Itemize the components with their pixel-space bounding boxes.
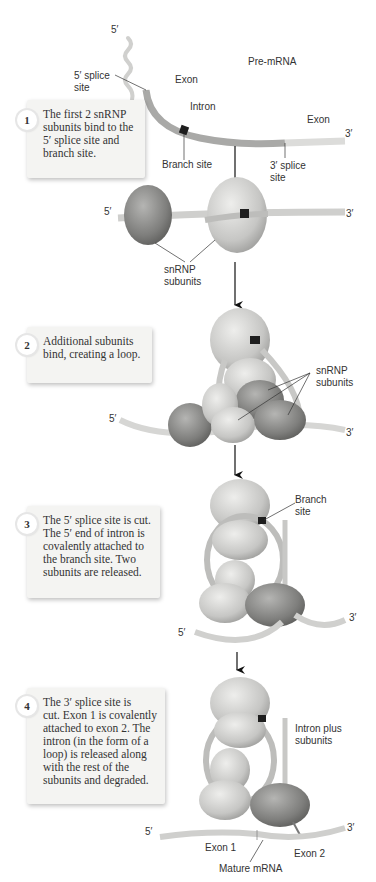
step-number-badge: 2 [17,335,37,355]
intron-label: Intron [190,101,216,113]
stage4-complex [199,677,310,835]
five-prime-label: 5′ [178,627,185,639]
step-description: The 3′ splice site is cut. Exon 1 is cov… [43,696,159,787]
five-prime-label: 5′ [104,206,111,218]
snrnp-subunits-label: snRNP subunits [316,365,353,389]
three-prime-label: 3′ [349,612,356,624]
step-2-box: 2 Additional subunits bind, creating a l… [27,327,152,383]
three-prime-splice-site-label: 3′ splice site [270,160,306,184]
step-description: The 5′ splice site is cut. The 5′ end of… [43,514,154,579]
three-prime-label: 3′ [346,427,353,439]
five-prime-label: 5′ [109,413,116,425]
pre-mrna-label: Pre-mRNA [248,56,296,68]
step-1-box: 1 The first 2 snRNP subunits bind to the… [27,100,145,178]
step-number-badge: 4 [17,696,37,716]
mature-mrna-label: Mature mRNA [219,863,282,875]
five-prime-label: 5′ [111,24,118,36]
five-prime-label: 5′ [145,826,152,838]
exon2-label: Exon 2 [294,848,325,860]
snrnp-subunits-label: snRNP subunits [164,264,201,288]
step-number-badge: 1 [17,110,37,130]
step-4-box: 4 The 3′ splice site is cut. Exon 1 is c… [27,688,165,804]
three-prime-label: 3′ [345,128,352,140]
five-prime-splice-site-label: 5′ splice site [74,70,110,94]
step-number-badge: 3 [17,514,37,534]
stage1-complex [118,177,345,262]
step-3-box: 3 The 5′ splice site is cut. The 5′ end … [27,506,160,598]
stage2-complex [120,308,345,447]
branch-site-label: Branch site [295,494,327,518]
step-description: Additional subunits bind, creating a loo… [43,335,146,361]
three-prime-label: 3′ [347,822,354,834]
exon-label-right: Exon [307,114,330,126]
exon1-label: Exon 1 [205,842,236,854]
intron-plus-subunits-label: Intron plus subunits [295,723,342,747]
step-description: The first 2 snRNP subunits bind to the 5… [43,108,139,160]
exon-label-left: Exon [175,74,198,86]
pre-mrna-strand [115,38,345,160]
branch-site-label: Branch site [162,159,212,171]
three-prime-label: 3′ [346,208,353,220]
